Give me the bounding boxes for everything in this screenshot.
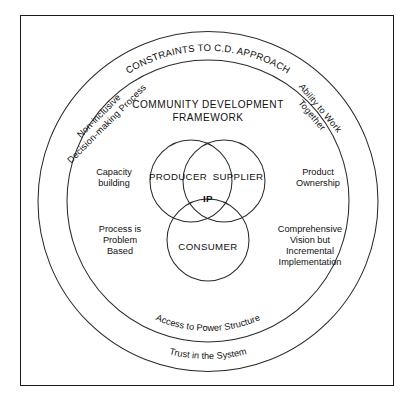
venn-label-producer: PRODUCER (149, 171, 207, 182)
framework-title-line1: COMMUNITY DEVELOPMENT (132, 99, 284, 110)
outer-left-constraint-line2: Decision-making Process (65, 82, 148, 165)
venn-label-consumer: CONSUMER (178, 241, 237, 252)
note-comprehensive-vision-line1: Comprehensive (278, 224, 342, 234)
note-comprehensive-vision-line4: Implementation (279, 257, 342, 267)
diagram-page: CONSTRAINTS TO C.D. APPROACH Trust in th… (0, 0, 413, 407)
venn-label-ip-intersection: IP (203, 193, 213, 204)
note-process-problem-based-line2: Problem (103, 235, 138, 245)
note-process-problem-based-line1: Process is (99, 224, 142, 234)
outer-ring-heading: CONSTRAINTS TO C.D. APPROACH (124, 42, 293, 76)
note-product-ownership-line1: Product (302, 167, 334, 177)
note-comprehensive-vision-line3: Incremental (286, 246, 334, 256)
note-capacity-building-line1: Capacity (96, 167, 132, 177)
framework-title-line2: FRAMEWORK (172, 112, 243, 123)
note-capacity-building-line2: building (98, 178, 130, 188)
venn-circle-consumer (167, 199, 249, 281)
inner-ring-bottom-label: Access to Power Structure (155, 312, 262, 333)
outer-left-constraint-label: Non-inclusive Decision-making Process (57, 74, 148, 165)
note-process-problem-based-line3: Based (107, 246, 133, 256)
venn-label-supplier: SUPPLIER (213, 171, 264, 182)
community-development-framework-diagram: CONSTRAINTS TO C.D. APPROACH Trust in th… (0, 0, 413, 407)
outer-right-constraint-label: Ability to Work Together (288, 82, 343, 142)
outer-ring-bottom-label: Trust in the System (168, 346, 247, 361)
note-comprehensive-vision-line2: Vision but (290, 235, 331, 245)
note-product-ownership-line2: Ownership (296, 178, 340, 188)
